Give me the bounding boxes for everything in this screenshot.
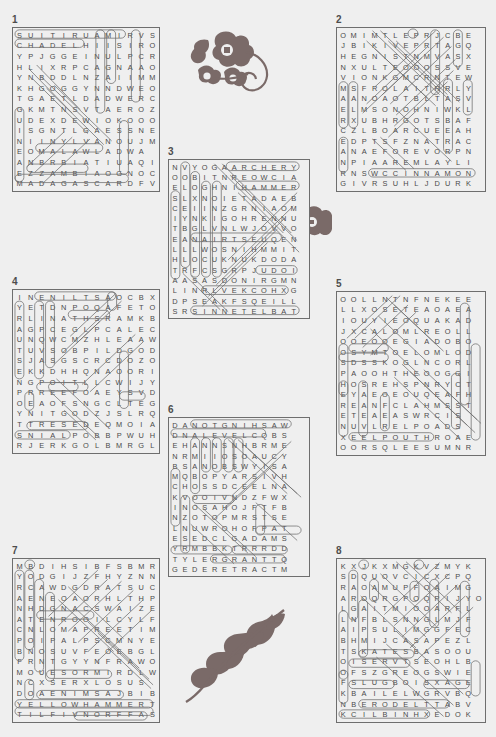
grid-cell: R (136, 94, 147, 105)
grid-cell: W (259, 172, 269, 182)
grid-cell: K (453, 104, 463, 115)
grid-cell: T (380, 603, 390, 614)
grid-cell: D (58, 115, 69, 126)
grid-cell: A (421, 635, 431, 646)
grid-cell: R (453, 358, 463, 369)
grid-cell: M (114, 699, 125, 710)
grid-cell: E (348, 51, 358, 62)
grid-cell: O (421, 582, 431, 593)
grid-cell: O (103, 168, 114, 179)
grid-cell: E (453, 305, 463, 316)
grid-cell: A (453, 136, 463, 147)
grid-cell: H (25, 41, 36, 52)
grid-cell: A (190, 461, 200, 471)
grid-cell: O (442, 326, 452, 337)
grid-cell: A (338, 625, 348, 636)
grid-cell: B (36, 72, 47, 83)
grid-cell: I (442, 411, 452, 422)
grid-cell: I (359, 157, 369, 168)
grid-cell: W (463, 72, 473, 83)
grid-cell: L (36, 709, 47, 720)
grid-cell: A (91, 94, 102, 105)
grid-cell: D (114, 345, 125, 356)
grid-cell: P (432, 635, 442, 646)
grid-cell: H (259, 162, 269, 172)
grid-cell: L (338, 305, 348, 316)
grid-cell: U (411, 389, 421, 400)
grid-cell: E (36, 115, 47, 126)
grid-cell (463, 421, 473, 432)
grid-cell: H (421, 400, 431, 411)
grid-cell: M (269, 244, 279, 254)
grid-cell: A (14, 324, 25, 335)
grid-cell: N (348, 168, 358, 179)
grid-cell: L (91, 678, 102, 689)
grid-cell: O (239, 523, 249, 533)
grid-cell: N (249, 554, 259, 564)
grid-cell: S (125, 125, 136, 136)
grid-cell: A (103, 303, 114, 314)
grid-cell: G (390, 72, 400, 83)
grid-cell: T (125, 398, 136, 409)
grid-cell (474, 115, 484, 126)
grid-cell (299, 306, 308, 316)
grid-cell: R (136, 41, 147, 52)
grid-cell: E (47, 667, 58, 678)
grid-row: BHMIJCASAPEZL (338, 635, 484, 646)
grid-cell: L (170, 244, 180, 254)
grid-cell: S (47, 678, 58, 689)
grid-cell: C (259, 564, 269, 574)
grid-cell: S (80, 178, 91, 189)
grid-cell: V (180, 492, 190, 502)
grid-cell: N (58, 303, 69, 314)
grid-cell: E (279, 513, 289, 523)
grid-row: OEAOFSNGCLTEG (14, 398, 158, 409)
grid-cell: C (380, 168, 390, 179)
grid-cell: M (190, 451, 200, 461)
grid-cell: X (348, 561, 358, 572)
grid-cell: G (58, 83, 69, 94)
grid-cell (299, 244, 308, 254)
grid-cell: T (170, 554, 180, 564)
grid-cell (473, 572, 484, 583)
grid-row: FRNTGYYNFRAWO (14, 656, 158, 667)
grid-cell: O (47, 83, 58, 94)
grid-cell: C (14, 625, 25, 636)
grid-cell (474, 157, 484, 168)
grid-cell (473, 646, 484, 657)
grid-cell: N (180, 523, 190, 533)
grid-cell (299, 203, 308, 213)
grid-cell: U (401, 432, 411, 443)
grid-cell: E (147, 635, 158, 646)
grid-cell: C (114, 614, 125, 625)
grid-cell: A (369, 411, 379, 422)
grid-cell: B (125, 561, 136, 572)
grid-cell: O (47, 398, 58, 409)
grid-cell: E (380, 411, 390, 422)
grid-cell: O (25, 635, 36, 646)
grid-cell: P (36, 324, 47, 335)
grid-cell: T (380, 347, 390, 358)
grid-cell: S (453, 94, 463, 105)
grid-cell: A (136, 147, 147, 158)
grid-cell: T (432, 699, 442, 710)
grid-cell: S (380, 178, 390, 189)
grid-cell: C (103, 377, 114, 388)
grid-row: TGAETLDADWERC (14, 94, 158, 105)
grid-cell: O (359, 72, 369, 83)
grid-cell: R (147, 561, 158, 572)
grid-cell: L (259, 306, 269, 316)
grid-cell: A (421, 336, 431, 347)
grid-cell: A (58, 313, 69, 324)
grid-cell: O (269, 255, 279, 265)
grid-cell: T (136, 303, 147, 314)
grid-cell: B (463, 656, 473, 667)
grid-cell: P (47, 635, 58, 646)
grid-cell: Y (463, 593, 473, 604)
grid-cell: U (348, 421, 358, 432)
grid-cell: L (369, 709, 379, 720)
grid-cell: O (114, 366, 125, 377)
grid-cell: D (442, 709, 452, 720)
grid-cell: P (125, 51, 136, 62)
grid-row: OFSZGREOGSWIE (338, 667, 484, 678)
